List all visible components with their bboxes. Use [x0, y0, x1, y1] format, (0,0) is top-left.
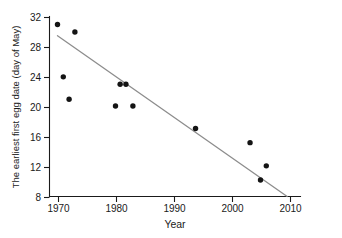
- y-tick-label: 8: [35, 192, 41, 203]
- data-points-group: [55, 22, 269, 183]
- regression-line: [58, 36, 288, 197]
- trend-line-group: [58, 36, 288, 197]
- data-point: [123, 82, 128, 87]
- scatter-plot: 8121620242832 19701980199020002010 Year …: [0, 0, 342, 238]
- data-point: [113, 103, 118, 108]
- data-point: [258, 177, 263, 182]
- axes-group: [50, 17, 301, 197]
- chart-figure: 8121620242832 19701980199020002010 Year …: [0, 0, 342, 238]
- data-point: [72, 29, 77, 34]
- y-tick-label: 32: [30, 12, 42, 23]
- data-point: [55, 22, 60, 27]
- y-tick-label: 16: [30, 132, 42, 143]
- data-point: [193, 126, 198, 131]
- data-point: [130, 103, 135, 108]
- x-tick-label: 2000: [221, 203, 244, 214]
- data-point: [117, 82, 122, 87]
- x-axis-title: Year: [164, 218, 186, 230]
- x-tick-label: 2010: [279, 203, 302, 214]
- y-tick-group: 8121620242832: [30, 12, 50, 203]
- x-tick-label: 1980: [105, 203, 128, 214]
- data-point: [66, 97, 71, 102]
- x-tick-label: 1990: [163, 203, 186, 214]
- x-tick-label: 1970: [47, 203, 70, 214]
- x-tick-group: 19701980199020002010: [47, 197, 302, 215]
- y-tick-label: 20: [30, 102, 42, 113]
- y-axis-title: The earliest first egg date (day of May): [10, 26, 21, 189]
- data-point: [247, 140, 252, 145]
- y-tick-label: 24: [30, 72, 42, 83]
- y-tick-label: 28: [30, 42, 42, 53]
- y-tick-label: 12: [30, 162, 42, 173]
- data-point: [61, 74, 66, 79]
- data-point: [264, 163, 269, 168]
